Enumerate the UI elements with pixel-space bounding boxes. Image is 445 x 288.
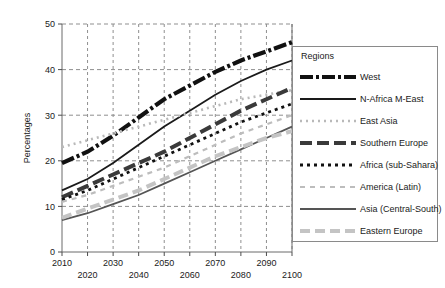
legend-swatch-icon	[300, 115, 356, 127]
x-tick-label: 2050	[154, 258, 174, 268]
series-line-1	[62, 60, 292, 190]
x-tick-label: 2030	[103, 258, 123, 268]
legend-item[interactable]: N-Africa M-East	[293, 88, 439, 110]
data-series-group	[62, 42, 292, 220]
legend-swatch-icon	[300, 93, 356, 105]
y-axis-label: Percentages	[22, 112, 32, 163]
y-tick-label: 10	[45, 202, 55, 212]
legend-item-label: Asia (Central-South)	[360, 204, 442, 214]
legend-item-label: Eastern Europe	[360, 226, 423, 236]
legend-item[interactable]: Eastern Europe	[293, 220, 439, 242]
series-line-5	[62, 115, 292, 202]
legend-item[interactable]: West	[293, 66, 439, 88]
legend-item[interactable]: America (Latin)	[293, 176, 439, 198]
legend-item[interactable]: Africa (sub-Sahara)	[293, 154, 439, 176]
x-tick-label: 2070	[205, 258, 225, 268]
legend-item-list: WestN-Africa M-EastEast AsiaSouthern Eur…	[293, 66, 439, 242]
legend-swatch-icon	[300, 159, 356, 171]
chart-legend: Regions WestN-Africa M-EastEast AsiaSout…	[292, 46, 438, 242]
legend-item-label: East Asia	[360, 116, 398, 126]
legend-item-label: N-Africa M-East	[360, 94, 424, 104]
y-tick-label: 50	[45, 19, 55, 29]
x-tick-label: 2090	[256, 258, 276, 268]
x-tick-label: 2100	[282, 270, 302, 280]
legend-swatch-icon	[300, 137, 356, 149]
legend-swatch-icon	[300, 71, 356, 83]
x-tick-label: 2010	[52, 258, 72, 268]
x-tick-label: 2020	[78, 270, 98, 280]
legend-item-label: America (Latin)	[360, 182, 421, 192]
x-tick-label: 2080	[231, 270, 251, 280]
legend-swatch-icon	[300, 225, 356, 237]
y-axis-title: Percentages	[22, 112, 32, 163]
y-tick-label: 30	[45, 111, 55, 121]
y-tick-label: 40	[45, 65, 55, 75]
legend-swatch-icon	[300, 181, 356, 193]
x-tick-label: 2060	[180, 270, 200, 280]
chart-figure: 0102030405020102030205020702090202020402…	[0, 0, 445, 288]
axis-tick-labels: 0102030405020102030205020702090202020402…	[45, 19, 302, 280]
legend-title: Regions	[301, 51, 334, 61]
legend-item-label: West	[360, 72, 380, 82]
legend-item[interactable]: Southern Europe	[293, 132, 439, 154]
legend-item[interactable]: East Asia	[293, 110, 439, 132]
axis-lines	[62, 24, 292, 252]
legend-item-label: Africa (sub-Sahara)	[360, 160, 438, 170]
x-tick-label: 2040	[129, 270, 149, 280]
gridlines	[62, 24, 292, 252]
legend-swatch-icon	[300, 203, 356, 215]
legend-item-label: Southern Europe	[360, 138, 428, 148]
y-tick-label: 0	[50, 247, 55, 257]
legend-item[interactable]: Asia (Central-South)	[293, 198, 439, 220]
y-tick-label: 20	[45, 156, 55, 166]
